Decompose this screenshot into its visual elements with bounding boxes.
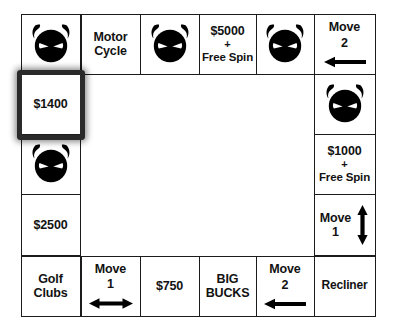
- board-cell-r1c1[interactable]: [21, 14, 81, 76]
- board-cell-r1c4[interactable]: $5000 + Free Spin: [199, 14, 257, 76]
- board-cell-label: Motor: [94, 30, 128, 45]
- move-label: Move: [95, 263, 126, 277]
- prize-amount: $5000: [210, 24, 244, 39]
- board-cell-label-2: BUCKS: [206, 286, 250, 301]
- board-cell-r5c6[interactable]: Recliner: [314, 256, 376, 318]
- board-cell-r1c5[interactable]: [256, 14, 315, 76]
- board-cell-r5c3[interactable]: $750: [140, 256, 200, 318]
- board-cell-r2c6[interactable]: [314, 74, 376, 136]
- move-count: 1: [107, 278, 114, 292]
- arrow-left-right-icon: [88, 297, 134, 310]
- board-cell-r5c1[interactable]: Golf Clubs: [21, 256, 81, 318]
- prize-plus: +: [224, 39, 230, 50]
- board-cell-label: Recliner: [321, 279, 367, 293]
- arrow-up-down-icon: [356, 204, 369, 246]
- board-cell-label: BIG: [217, 272, 239, 287]
- move-count: 2: [282, 279, 289, 293]
- move-label: Move: [269, 263, 300, 277]
- board-cell-r3c6[interactable]: $1000 + Free Spin: [314, 134, 376, 196]
- board-cell-r1c3[interactable]: [140, 14, 200, 76]
- move-label: Move: [320, 211, 351, 225]
- board-cell-label: Golf: [38, 272, 62, 287]
- devil-face-icon: [28, 22, 74, 66]
- board-cell-r1c6[interactable]: Move 2: [314, 14, 376, 76]
- prize-plus: +: [341, 159, 347, 170]
- devil-face-icon: [28, 142, 74, 186]
- board-cell-r3c1[interactable]: [21, 134, 81, 196]
- board-cell-label: $750: [156, 279, 183, 294]
- game-board: Motor Cycle $5000 + Free Spin: [0, 0, 393, 331]
- arrow-left-icon: [323, 56, 367, 68]
- move-count: 1: [332, 225, 339, 239]
- board-cell-r5c4[interactable]: BIG BUCKS: [199, 256, 257, 318]
- board-cell-label-2: Clubs: [34, 286, 68, 301]
- board-cell-r1c2[interactable]: Motor Cycle: [81, 14, 141, 76]
- devil-face-icon: [147, 22, 193, 66]
- board-cell-label: $1400: [33, 97, 67, 112]
- board-cell-label: $2500: [33, 218, 67, 233]
- arrow-left-icon: [263, 298, 307, 310]
- devil-face-icon: [322, 82, 368, 126]
- board-cell-label-2: Cycle: [94, 44, 127, 59]
- prize-amount: $1000: [327, 144, 361, 159]
- board-cell-r4c6[interactable]: Move 1: [314, 194, 376, 257]
- board-cell-r5c5[interactable]: Move 2: [256, 256, 315, 318]
- prize-bonus: Free Spin: [202, 51, 253, 64]
- move-count: 2: [341, 37, 348, 51]
- board-cell-r4c1[interactable]: $2500: [21, 194, 81, 257]
- devil-face-icon: [262, 22, 308, 66]
- move-label: Move: [329, 21, 360, 35]
- prize-bonus: Free Spin: [319, 171, 370, 184]
- board-frame: Motor Cycle $5000 + Free Spin: [21, 14, 373, 316]
- board-cell-r2c1[interactable]: $1400: [21, 74, 81, 136]
- board-cell-r5c2[interactable]: Move 1: [81, 256, 141, 318]
